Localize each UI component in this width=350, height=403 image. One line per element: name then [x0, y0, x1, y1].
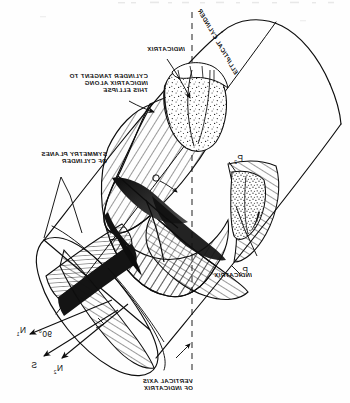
- label-p1: P1: [239, 267, 248, 278]
- label-n2: N2: [53, 365, 63, 376]
- label-p1-letter: P: [242, 265, 248, 275]
- label-n1: N1: [16, 327, 26, 338]
- label-p1-subscript: 1: [239, 271, 242, 277]
- technical-diagram-svg: [0, 0, 350, 403]
- label-p2-letter: P: [237, 153, 243, 163]
- label-n2-subscript: 2: [53, 369, 56, 375]
- figure-root: INDICATRIX CYLINDER TANGENT TO INDICATRI…: [0, 0, 350, 403]
- label-n1-letter: N: [20, 325, 26, 335]
- label-vertical-axis: VERTICAL AXIS OF INDICATRIX: [143, 377, 194, 391]
- label-symmetry-planes: SYMMETRY PLANES OF CYLINDER: [41, 150, 107, 164]
- cylinder-far-rim-upper-2: [330, 84, 341, 124]
- label-p2-subscript: 2: [234, 159, 237, 165]
- scan-noise-row: [40, 2, 334, 22]
- label-n2-letter: N: [57, 363, 63, 373]
- label-indicatrix-top: INDICATRIX: [147, 45, 185, 52]
- label-cylinder-tangent: CYLINDER TANGENT TO INDICATRIX ALONG THI…: [69, 72, 148, 94]
- label-angle-90: 90°: [38, 331, 52, 338]
- label-s: S: [31, 362, 37, 369]
- label-n1-subscript: 1: [16, 331, 19, 337]
- label-p2: P2: [234, 155, 243, 166]
- leader-vertical-axis: [176, 344, 190, 358]
